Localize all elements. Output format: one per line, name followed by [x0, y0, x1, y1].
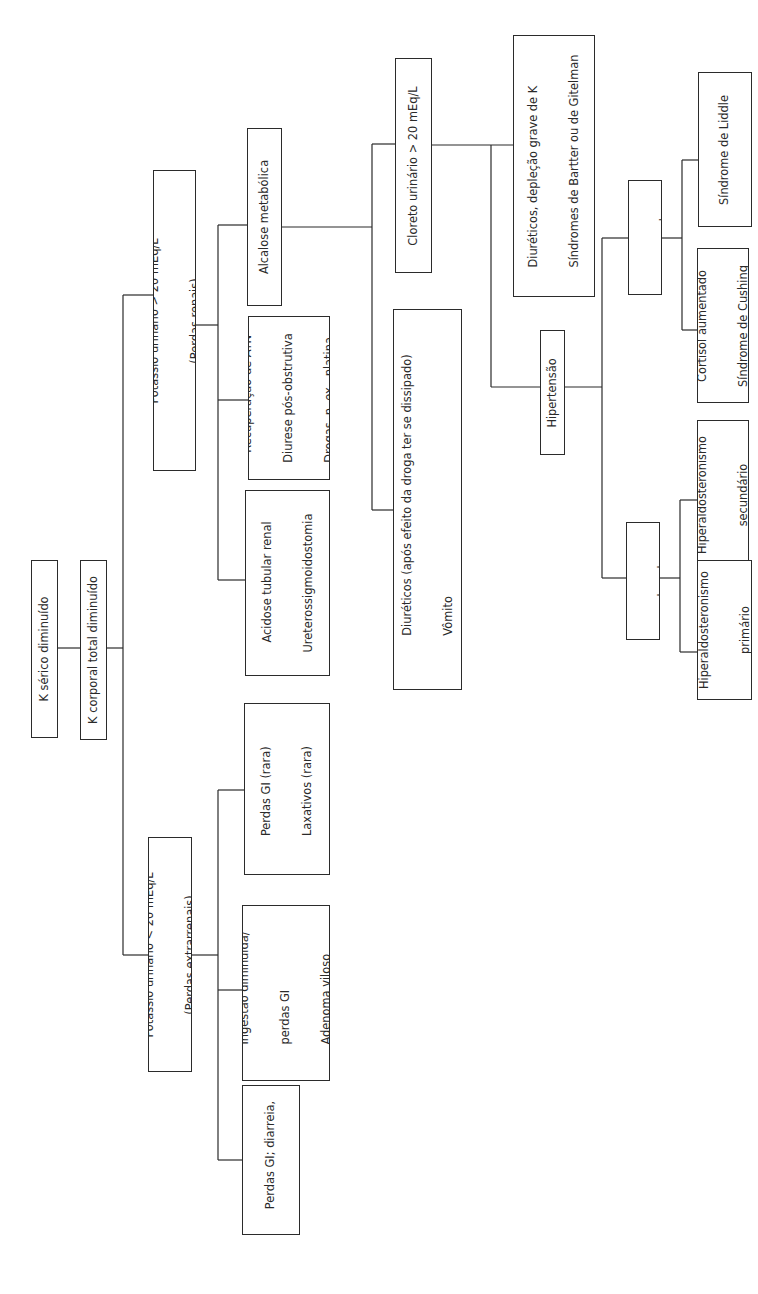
node-cloreto-maior-20: Cloreto urinário > 20 mEq/L	[395, 58, 432, 273]
node-text: normal	[659, 203, 662, 271]
node-aldosterona-elevada: Aldosterona elevada	[626, 522, 660, 640]
node-acidose-metabolica-gi: Acidose metabólica Perdas GI; diarreia, …	[242, 1085, 300, 1235]
node-text: Potássio urinário > 20 mEq/L	[153, 238, 161, 403]
node-text: perdas GI	[279, 931, 293, 1054]
node-text: Laxativos (rara)	[301, 732, 315, 846]
node-k-serico-diminuido: K sérico diminuído	[31, 560, 58, 738]
node-ph-variavel: pH variável Recuperação de ATN Diurese p…	[248, 316, 330, 480]
node-text: Hipertensão	[546, 358, 560, 427]
node-text: elevada	[657, 547, 660, 615]
node-text: secundário	[737, 436, 749, 554]
node-text: Diuréticos (após efeito da droga ter se …	[400, 354, 414, 645]
node-text: Diurese pós-obstrutiva	[282, 333, 296, 462]
node-text: Síndrome de Liddle	[718, 95, 732, 205]
node-text: Vômito	[441, 354, 455, 645]
node-hiperaldosteronismo-primario: Hiperaldosteronismo primário	[697, 560, 752, 700]
node-cloreto-menor-20: Cloreto urinário < 20 mEq/L Diuréticos (…	[393, 309, 462, 690]
node-bp-normal-ou-diminuida: BP normal ou diminuída Diuréticos, deple…	[513, 35, 595, 297]
node-text: Ureterossigmoidostomia	[301, 514, 315, 653]
node-cortisol-normal: Cortisol normal Síndrome de Liddle AME	[698, 72, 752, 227]
node-alcalose-metabolica-renal: Alcalose metabólica	[247, 128, 282, 306]
node-text: Diuréticos, depleção grave de K	[527, 54, 541, 277]
node-text: Síndrome de Cushing	[737, 265, 749, 387]
node-text: Potássio urinário < 20 mEq/L	[148, 872, 156, 1037]
node-ph-normal: pH normal Ingestão diminuída/ perdas GI …	[242, 905, 330, 1081]
node-aldosterona-normal: Aldosterona normal	[628, 180, 662, 295]
node-text: Síndromes de Bartter ou de Gitelman	[568, 54, 582, 277]
node-text: Adenoma viloso	[320, 931, 330, 1054]
node-k-corporal-total-diminuido: K corporal total diminuído	[80, 560, 107, 740]
node-text: primário	[738, 571, 752, 689]
node-text: Perdas GI (rara)	[260, 732, 274, 846]
node-text: Cloreto urinário > 20 mEq/L	[407, 86, 421, 245]
node-potassio-maior-20: Potássio urinário > 20 mEq/L (Perdas ren…	[153, 170, 196, 471]
node-text: Acidose tubular renal	[260, 514, 274, 653]
node-cortisol-aumentado: Cortisol aumentado Síndrome de Cushing	[697, 248, 749, 403]
node-potassio-menor-20: Potássio urinário < 20 mEq/L (Perdas ext…	[148, 837, 192, 1072]
node-text: Recuperação de ATN	[248, 333, 255, 462]
node-text: Aldosterona	[628, 203, 631, 271]
node-hiperaldosteronismo-secundario: Hiperaldosteronismo secundário	[697, 420, 749, 570]
node-text: (Perdas extrarrenais)	[184, 872, 192, 1037]
node-hipertensao: Hipertensão	[540, 330, 565, 455]
node-text: Ingestão diminuída/	[242, 931, 252, 1054]
node-alcalose-metabolica-extrarrenal: Alcalose metabólica Perdas GI (rara) Lax…	[244, 703, 330, 875]
node-text: (Perdas renais)	[188, 238, 196, 403]
node-text: K sérico diminuído	[38, 596, 52, 701]
node-text: Alcalose metabólica	[258, 160, 272, 274]
node-acidose-metabolica-renal: Acidose metabólica Acidose tubular renal…	[245, 490, 330, 676]
node-text: Hiperaldosteronismo	[697, 571, 711, 689]
node-text: Drogas, p. ex., platina,	[323, 333, 330, 462]
node-text: Aldosterona	[626, 547, 629, 615]
node-text: Hiperaldosteronismo	[697, 436, 709, 554]
node-text: Perdas GI; diarreia,	[264, 1101, 278, 1219]
node-text: K corporal total diminuído	[87, 576, 101, 724]
node-text: Cortisol aumentado	[697, 265, 709, 387]
